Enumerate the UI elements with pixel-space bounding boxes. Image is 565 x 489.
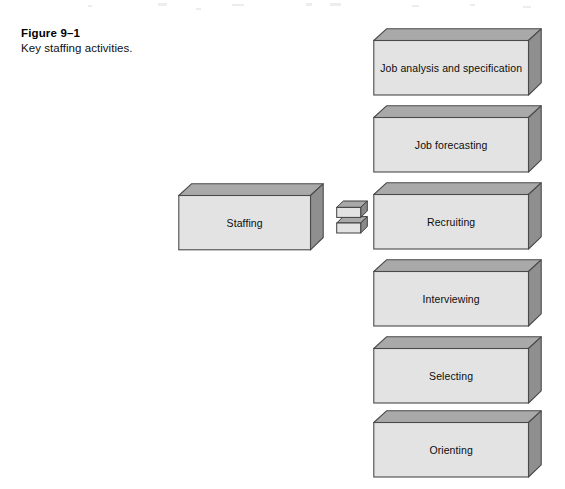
activity-block-interviewing: Interviewing — [373, 259, 542, 327]
scan-artifact-band — [0, 0, 565, 14]
activity-block-job-forecasting: Job forecasting — [373, 105, 542, 173]
figure-caption: Figure 9–1 Key staffing activities. — [21, 27, 281, 55]
activity-block-job-analysis-and-specification: Job analysis and specification — [373, 28, 542, 96]
staffing-block: Staffing — [178, 183, 324, 251]
figure-caption-text: Key staffing activities. — [21, 42, 281, 56]
activity-block-selecting: Selecting — [373, 336, 542, 404]
activity-block-recruiting: Recruiting — [373, 182, 542, 250]
figure-number-label: Figure 9–1 — [21, 27, 281, 41]
figure-canvas: Figure 9–1 Key staffing activities. Staf… — [0, 0, 565, 489]
activity-block-orienting: Orienting — [373, 410, 542, 478]
equals-connector — [336, 200, 368, 234]
